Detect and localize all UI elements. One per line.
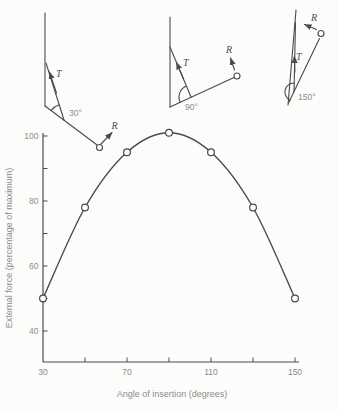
vector-diagram-30deg: T R 30°: [45, 13, 118, 151]
angle-label: 150°: [298, 92, 316, 102]
tension-label: T: [56, 68, 63, 79]
force-angle-chart: 3070110150406080100 Angle of insertion (…: [4, 129, 302, 399]
angle-label: 90°: [185, 102, 198, 112]
data-point-marker: [82, 204, 89, 211]
angle-label: 30°: [69, 108, 82, 118]
data-point-marker: [292, 295, 299, 302]
angle-arc: [51, 105, 59, 111]
data-points: [40, 129, 299, 301]
tension-arrow: [294, 56, 295, 72]
reaction-arrow: [101, 133, 112, 145]
y-tick-label: 40: [29, 326, 39, 336]
axis-ticks: [43, 136, 295, 362]
data-point-marker: [124, 149, 131, 156]
biomechanics-figure: T R 30° T R 90° T R 150° 307011015040608…: [0, 0, 338, 410]
vector-diagram-150deg: T R 150°: [285, 10, 324, 105]
hand-icon: [318, 31, 324, 37]
data-point-marker: [40, 295, 47, 302]
y-tick-label: 100: [24, 131, 38, 141]
x-tick-label: 30: [38, 367, 48, 377]
data-point-marker: [208, 149, 215, 156]
y-axis-title: External force (percentage of maximum): [4, 168, 14, 329]
reaction-arrow: [305, 25, 317, 30]
hand-icon: [234, 73, 240, 79]
x-tick-label: 70: [122, 367, 132, 377]
reaction-arrow: [231, 58, 235, 70]
y-tick-label: 80: [29, 196, 39, 206]
data-point-marker: [250, 204, 257, 211]
tension-label: T: [296, 51, 303, 62]
tension-label: T: [183, 57, 190, 68]
force-curve: [43, 133, 295, 299]
data-point-marker: [166, 129, 173, 136]
vector-diagram-90deg: T R 90°: [170, 17, 240, 112]
reaction-label: R: [225, 44, 232, 55]
x-tick-label: 110: [204, 367, 218, 377]
reaction-label: R: [111, 120, 118, 131]
reaction-label: R: [310, 12, 317, 23]
figure-svg: T R 30° T R 90° T R 150° 307011015040608…: [0, 0, 338, 410]
x-axis-title: Angle of insertion (degrees): [117, 389, 228, 399]
y-tick-label: 60: [29, 261, 39, 271]
axis-tick-labels: 3070110150406080100: [24, 131, 302, 377]
hand-icon: [97, 145, 103, 151]
x-tick-label: 150: [288, 367, 302, 377]
